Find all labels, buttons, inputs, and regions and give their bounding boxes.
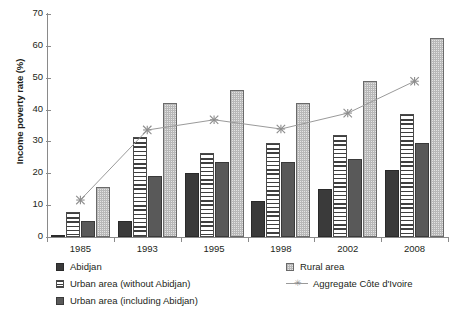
- x-axis-tick-label-2002: 2002: [318, 243, 378, 254]
- x-axis-tick-label-1993: 1993: [117, 243, 177, 254]
- bar-urban-wo-1995: [200, 153, 214, 237]
- bar-rural-1998: [296, 103, 310, 237]
- x-axis-tick: [181, 237, 182, 242]
- bar-group-2008: [381, 14, 448, 237]
- bar-urban-incl-1993: [148, 176, 162, 237]
- bar-group-1998: [248, 14, 315, 237]
- x-axis-tick: [248, 237, 249, 242]
- legend-label: Rural area: [300, 261, 344, 272]
- poverty-rate-chart: Income poverty rate (%) 010203040506070 …: [0, 0, 456, 309]
- bar-urban-wo-2008: [400, 114, 414, 237]
- bar-abidjan-1993: [118, 221, 132, 237]
- bar-rural-2002: [363, 81, 377, 237]
- legend-item-aggregate[interactable]: ✳Aggregate Côte d'Ivoire: [286, 275, 456, 292]
- bar-group-2002: [314, 14, 381, 237]
- x-axis-tick-label-1985: 1985: [50, 243, 110, 254]
- legend-line-marker-icon: ✳: [286, 279, 308, 289]
- legend-item-abidjan[interactable]: Abidjan: [56, 258, 286, 275]
- legend-column-right: Rural area✳Aggregate Côte d'Ivoire: [286, 258, 456, 292]
- y-axis-tick-label: 60: [3, 39, 43, 50]
- x-axis-tick: [47, 237, 48, 242]
- y-axis-tick-label: 0: [3, 230, 43, 241]
- legend-swatch-urban-wo-icon: [56, 280, 64, 288]
- bar-urban-incl-1998: [281, 162, 295, 237]
- y-axis-tick-label: 50: [3, 71, 43, 82]
- bar-urban-wo-1993: [133, 137, 147, 237]
- bar-urban-incl-2008: [415, 143, 429, 237]
- bar-abidjan-1998: [251, 201, 265, 237]
- x-axis-tick-label-2008: 2008: [385, 243, 445, 254]
- bar-abidjan-2008: [385, 170, 399, 237]
- bar-urban-incl-1985: [81, 221, 95, 237]
- legend-item-urban-wo[interactable]: Urban area (without Abidjan): [56, 275, 286, 292]
- x-axis-tick: [114, 237, 115, 242]
- x-axis-tick-label-1995: 1995: [184, 243, 244, 254]
- legend-item-urban-incl[interactable]: Urban area (including Abidjan): [56, 292, 286, 309]
- x-axis-tick: [381, 237, 382, 242]
- bar-urban-incl-2002: [348, 159, 362, 237]
- legend-swatch-rural-icon: [286, 263, 294, 271]
- bar-urban-incl-1995: [215, 162, 229, 238]
- legend-swatch-abidjan-icon: [56, 263, 64, 271]
- y-axis-tick-label: 70: [3, 7, 43, 18]
- y-axis-tick-label: 40: [3, 103, 43, 114]
- bar-urban-wo-1998: [266, 143, 280, 237]
- bar-rural-1985: [96, 187, 110, 237]
- bar-abidjan-1995: [185, 173, 199, 237]
- y-axis-tick-label: 20: [3, 166, 43, 177]
- legend-swatch-urban-incl-icon: [56, 297, 64, 305]
- legend-label: Urban area (without Abidjan): [70, 278, 190, 289]
- legend-column-left: AbidjanUrban area (without Abidjan)Urban…: [56, 258, 286, 309]
- y-axis-tick-label: 10: [3, 198, 43, 209]
- legend-label: Abidjan: [70, 261, 102, 272]
- legend-label: Aggregate Côte d'Ivoire: [313, 278, 413, 289]
- bar-group-1995: [181, 14, 248, 237]
- bar-urban-wo-1985: [66, 212, 80, 237]
- x-axis-tick-label-1998: 1998: [251, 243, 311, 254]
- bar-abidjan-2002: [318, 189, 332, 237]
- legend-label: Urban area (including Abidjan): [70, 295, 198, 306]
- x-axis-tick: [448, 237, 449, 242]
- bar-urban-wo-2002: [333, 135, 347, 237]
- legend-item-rural[interactable]: Rural area: [286, 258, 456, 275]
- plot-area: [47, 14, 448, 237]
- bar-rural-2008: [430, 38, 444, 237]
- x-axis-tick: [314, 237, 315, 242]
- bar-group-1993: [114, 14, 181, 237]
- bar-group-1985: [47, 14, 114, 237]
- bar-rural-1993: [163, 103, 177, 237]
- bar-abidjan-1985: [51, 235, 65, 237]
- bar-rural-1995: [230, 90, 244, 237]
- y-axis-tick-label: 30: [3, 134, 43, 145]
